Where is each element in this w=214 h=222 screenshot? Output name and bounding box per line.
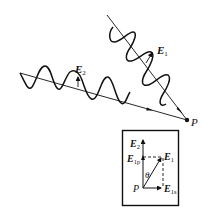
wave-2-direction-arrow-icon (146, 108, 153, 111)
wave-2: E2 (20, 63, 187, 120)
wave-1-axis (107, 15, 187, 120)
inset-vector-box: E2 E1p E1 E1s θ P (123, 131, 179, 206)
point-p: P (185, 116, 198, 128)
wave-1-sinusoid (110, 27, 170, 105)
point-p-label: P (190, 116, 198, 128)
e1-label: E1 (156, 44, 168, 58)
two-wave-superposition-diagram: E2 E1 P E2 (0, 0, 214, 222)
inset-origin-p-label: P (132, 183, 139, 194)
e2-label: E2 (74, 63, 86, 77)
point-p-dot (185, 118, 189, 122)
wave-1: E1 (107, 15, 187, 120)
inset-theta-label: θ (145, 170, 150, 180)
wave-1-direction-arrow-icon (177, 107, 184, 114)
